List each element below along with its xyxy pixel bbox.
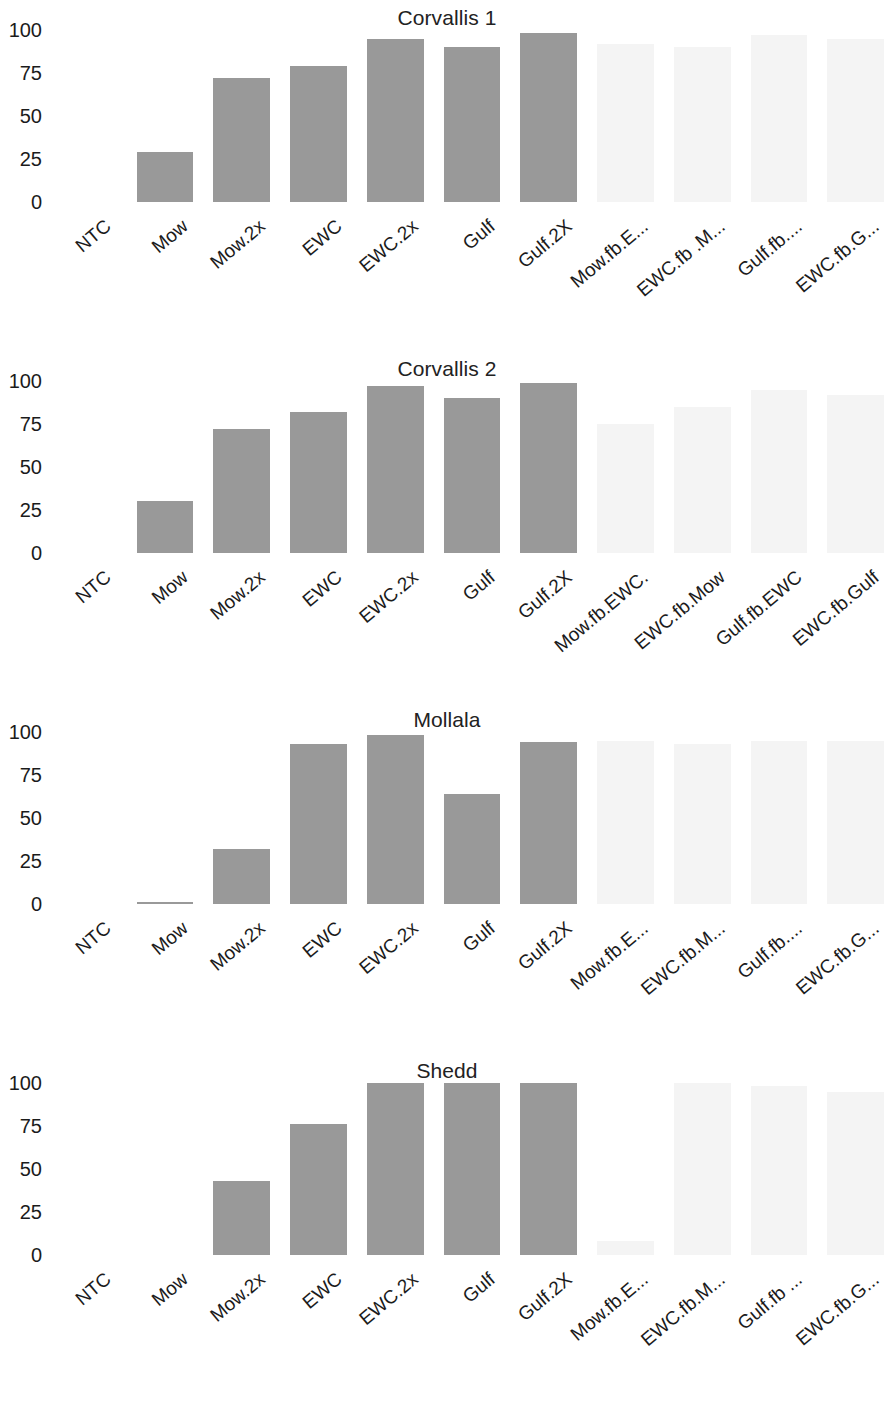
x-axis-tick-label: Gulf.fb.... xyxy=(734,216,805,280)
y-axis-tick-label: 50 xyxy=(20,1159,42,1179)
bar xyxy=(827,39,884,202)
bar-slot xyxy=(137,732,194,904)
y-axis-tick-label: 0 xyxy=(31,192,42,212)
y-axis-tick-label: 75 xyxy=(20,414,42,434)
bar xyxy=(137,501,194,553)
x-axis-tick-label: EWC.fb.M... xyxy=(638,1269,729,1349)
y-axis-tick-label: 25 xyxy=(20,1202,42,1222)
bar xyxy=(290,66,347,202)
multi-panel-bar-chart-figure: Corvallis 10255075100NTCMowMow.2xEWCEWC.… xyxy=(0,0,894,1404)
bar xyxy=(827,395,884,553)
bar-slot xyxy=(827,732,884,904)
panel-title: Corvallis 1 xyxy=(0,6,894,30)
x-axis-tick-label: Gulf.2X xyxy=(514,216,575,271)
x-axis-tick-label: Mow xyxy=(148,567,191,607)
bar xyxy=(674,1083,731,1255)
plot-area xyxy=(50,732,894,904)
bar xyxy=(674,407,731,553)
bar xyxy=(597,1241,654,1255)
y-axis-tick-label: 100 xyxy=(9,722,42,742)
bar-slot xyxy=(290,732,347,904)
bar xyxy=(290,412,347,553)
y-axis-tick-label: 0 xyxy=(31,894,42,914)
x-axis-tick-label: EWC.fb.G... xyxy=(792,918,882,998)
panel-title: Mollala xyxy=(0,708,894,732)
x-axis-tick-label: Gulf xyxy=(459,1269,498,1306)
bar-slot xyxy=(827,381,884,553)
bar-slot xyxy=(213,1083,270,1255)
y-axis-tick-label: 25 xyxy=(20,851,42,871)
x-axis-tick-label: Mow xyxy=(148,918,191,958)
bar xyxy=(290,1124,347,1255)
bar xyxy=(597,424,654,553)
bar-slot xyxy=(444,1083,501,1255)
bar xyxy=(367,39,424,202)
bar-slot xyxy=(751,381,808,553)
bar-slot xyxy=(367,30,424,202)
bar xyxy=(520,1083,577,1255)
bar xyxy=(597,44,654,202)
bar-slot xyxy=(290,381,347,553)
x-axis-tick-label: Gulf.fb ... xyxy=(734,1269,805,1333)
bar-slot xyxy=(520,381,577,553)
x-axis-tick-label: Gulf xyxy=(459,216,498,253)
bar-slot xyxy=(520,1083,577,1255)
x-axis-tick-label: EWC.2x xyxy=(356,216,422,275)
y-axis-tick-label: 25 xyxy=(20,149,42,169)
bar-slot xyxy=(751,732,808,904)
bar-slot xyxy=(290,30,347,202)
bar xyxy=(290,744,347,904)
bar xyxy=(367,735,424,904)
chart-panel: Shedd0255075100NTCMowMow.2xEWCEWC.2xGulf… xyxy=(0,1053,894,1404)
y-axis-tick-label: 50 xyxy=(20,457,42,477)
bar xyxy=(674,47,731,202)
bar-slot xyxy=(674,30,731,202)
bar xyxy=(751,390,808,553)
panel-title: Corvallis 2 xyxy=(0,357,894,381)
bar-slot xyxy=(137,1083,194,1255)
x-axis-tick-label: EWC.fb.G... xyxy=(792,216,882,296)
x-axis-tick-label: EWC.fb.M... xyxy=(638,918,729,998)
panel-title: Shedd xyxy=(0,1059,894,1083)
x-axis-tick-label: NTC xyxy=(72,1269,114,1309)
bar-slot xyxy=(444,732,501,904)
x-axis-tick-label: Mow xyxy=(148,1269,191,1309)
bar xyxy=(137,152,194,202)
bar xyxy=(827,741,884,904)
bar-slot xyxy=(60,1083,117,1255)
y-axis-tick-label: 100 xyxy=(9,20,42,40)
bar-slot xyxy=(213,732,270,904)
bar-slot xyxy=(367,1083,424,1255)
bar xyxy=(444,398,501,553)
bar xyxy=(213,78,270,202)
bar-slot xyxy=(137,381,194,553)
bar-series xyxy=(50,381,894,553)
chart-panel: Corvallis 10255075100NTCMowMow.2xEWCEWC.… xyxy=(0,0,894,351)
bar xyxy=(597,741,654,904)
x-axis-tick-label: NTC xyxy=(72,918,114,958)
bar-slot xyxy=(751,30,808,202)
bar xyxy=(213,429,270,553)
bar-slot xyxy=(597,1083,654,1255)
bar xyxy=(751,741,808,904)
x-axis-tick-label: EWC xyxy=(299,918,345,961)
bar-slot xyxy=(520,732,577,904)
plot-area xyxy=(50,30,894,202)
bar-slot xyxy=(367,732,424,904)
chart-panel: Corvallis 20255075100NTCMowMow.2xEWCEWC.… xyxy=(0,351,894,702)
bar xyxy=(367,386,424,553)
y-axis: 0255075100 xyxy=(0,30,46,202)
x-axis-tick-label: EWC xyxy=(299,1269,345,1312)
x-axis-tick-label: EWC xyxy=(299,567,345,610)
x-axis-tick-label: Gulf.2X xyxy=(514,918,575,973)
y-axis: 0255075100 xyxy=(0,381,46,553)
x-axis-tick-label: Mow.2x xyxy=(206,567,268,623)
bar-slot xyxy=(597,732,654,904)
x-axis-tick-label: Gulf xyxy=(459,567,498,604)
y-axis-tick-label: 75 xyxy=(20,1116,42,1136)
x-axis-tick-label: EWC.2x xyxy=(356,567,422,626)
y-axis-tick-label: 25 xyxy=(20,500,42,520)
bar xyxy=(520,383,577,553)
bar-slot xyxy=(674,381,731,553)
x-axis-tick-label: Mow xyxy=(148,216,191,256)
